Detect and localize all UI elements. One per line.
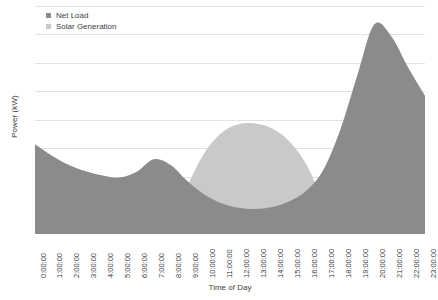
legend-item-net-load: Net Load [46, 10, 116, 21]
legend-item-solar-generation: Solar Generation [46, 21, 116, 32]
x-tick-label: 19:00:00 [361, 249, 370, 278]
x-tick-label: 1:00:00 [55, 253, 64, 278]
x-tick-label: 11:00:00 [225, 249, 234, 278]
y-axis-title: Power (kW) [10, 72, 19, 162]
x-axis-tick-labels: 0:00:001:00:002:00:003:00:004:00:005:00:… [35, 236, 425, 280]
legend-label-solar-generation: Solar Generation [56, 21, 116, 32]
x-tick-label: 9:00:00 [191, 253, 200, 278]
x-tick-label: 4:00:00 [106, 253, 115, 278]
x-tick-label: 10:00:00 [208, 249, 217, 278]
chart-svg [35, 6, 425, 234]
x-axis-title: Time of Day [35, 283, 425, 292]
x-tick-label: 16:00:00 [310, 249, 319, 278]
x-tick-label: 23:00:00 [429, 249, 438, 278]
x-tick-label: 21:00:00 [395, 249, 404, 278]
x-tick-label: 22:00:00 [412, 249, 421, 278]
x-tick-label: 18:00:00 [344, 249, 353, 278]
plot-area [35, 6, 425, 234]
x-tick-label: 13:00:00 [259, 249, 268, 278]
x-tick-label: 17:00:00 [327, 249, 336, 278]
x-tick-label: 7:00:00 [157, 253, 166, 278]
legend-label-net-load: Net Load [56, 10, 88, 21]
x-tick-label: 5:00:00 [123, 253, 132, 278]
x-tick-label: 6:00:00 [140, 253, 149, 278]
x-tick-label: 14:00:00 [276, 249, 285, 278]
chart-legend: Net Load Solar Generation [46, 10, 116, 32]
legend-swatch-net-load [46, 13, 51, 18]
x-tick-label: 20:00:00 [378, 249, 387, 278]
legend-swatch-solar-generation [46, 24, 51, 29]
x-tick-label: 3:00:00 [89, 253, 98, 278]
x-tick-label: 8:00:00 [174, 253, 183, 278]
x-tick-label: 2:00:00 [72, 253, 81, 278]
x-tick-label: 0:00:00 [39, 253, 48, 278]
x-tick-label: 12:00:00 [242, 249, 251, 278]
x-tick-label: 15:00:00 [293, 249, 302, 278]
